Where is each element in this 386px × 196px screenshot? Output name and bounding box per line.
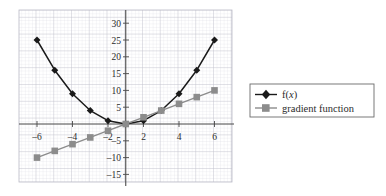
data-point-marker (158, 107, 165, 114)
data-point-marker (140, 114, 147, 121)
y-tick-label: –10 (106, 153, 122, 163)
data-point-marker (51, 148, 58, 155)
legend-label-fx: f(x) (282, 89, 298, 101)
chart-figure: –6 –4 –2 2 4 6 30 25 20 15 10 5 –5 –10 –… (0, 0, 386, 196)
y-tick-label: 20 (112, 52, 122, 62)
y-tick-label: –5 (111, 136, 122, 146)
y-tick-label: 5 (116, 103, 121, 113)
x-tick-label: –4 (67, 132, 78, 142)
data-point-marker (69, 141, 76, 148)
square-marker-icon (262, 104, 270, 112)
legend-fx-suffix: ) (294, 89, 298, 101)
data-point-marker (193, 94, 200, 101)
y-tick-label: 10 (112, 86, 122, 96)
y-tick-label: –15 (106, 170, 122, 180)
x-tick-label: 4 (177, 132, 182, 142)
data-point-marker (176, 101, 183, 108)
y-tick-label: 25 (112, 36, 122, 46)
chart-legend: f(x) gradient function (250, 84, 374, 117)
y-tick-label: 15 (112, 69, 122, 79)
data-point-marker (122, 121, 129, 128)
legend-label-gradient-function: gradient function (282, 103, 355, 114)
xy-plot: –6 –4 –2 2 4 6 30 25 20 15 10 5 –5 –10 –… (0, 0, 386, 196)
data-point-marker (34, 154, 41, 161)
x-tick-label: 6 (212, 132, 217, 142)
data-point-marker (87, 134, 94, 141)
y-tick-label: 30 (112, 19, 122, 29)
x-tick-label: 2 (141, 132, 146, 142)
x-tick-label: –6 (31, 132, 42, 142)
data-point-marker (211, 87, 218, 94)
data-point-marker (105, 127, 112, 134)
